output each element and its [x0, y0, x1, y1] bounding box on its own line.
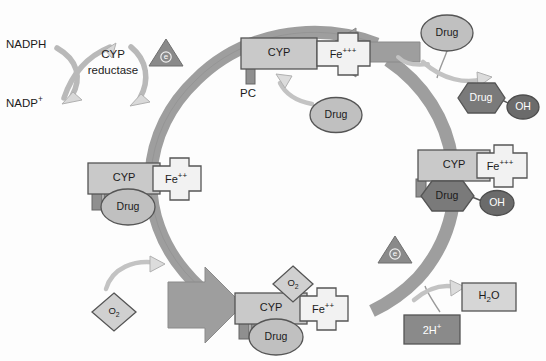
- complex-top: [241, 33, 370, 84]
- water-proton-group: [404, 280, 516, 344]
- complex-left: [88, 158, 201, 225]
- electron-triangle-right: [378, 236, 412, 263]
- oxygen-free-group: [92, 256, 165, 331]
- complex-bottom: [235, 266, 348, 355]
- drug-metabolite-group: [458, 83, 539, 119]
- cyp-catalytic-cycle-diagram: NADPH NADP+ CYP reductase e e CYP Fe+++ …: [0, 0, 546, 361]
- complex-right: [416, 145, 527, 216]
- ring-arrowhead-bottom-left: [168, 267, 243, 343]
- electron-triangle-top: [149, 39, 183, 66]
- diagram-canvas: [0, 0, 546, 361]
- reductase-arrows: [57, 43, 150, 106]
- drug-center-arrow: [276, 74, 362, 133]
